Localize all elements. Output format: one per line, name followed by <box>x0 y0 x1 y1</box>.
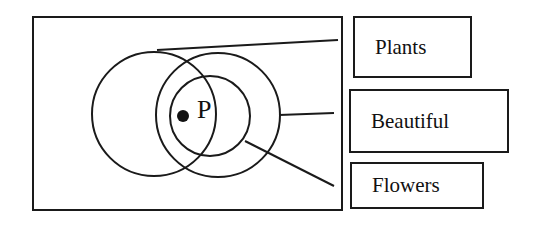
point-p-dot <box>177 110 189 122</box>
plants-label: Plants <box>375 35 426 60</box>
plants-connector <box>157 40 338 50</box>
beautiful-circle <box>156 53 280 177</box>
beautiful-connector <box>279 113 334 115</box>
plants-label-box: Plants <box>353 16 472 78</box>
point-p-label: P <box>197 95 211 125</box>
beautiful-label: Beautiful <box>371 109 449 134</box>
flowers-label: Flowers <box>372 173 440 198</box>
flowers-connector <box>245 141 334 186</box>
beautiful-label-box: Beautiful <box>349 89 509 153</box>
flowers-label-box: Flowers <box>350 162 484 209</box>
